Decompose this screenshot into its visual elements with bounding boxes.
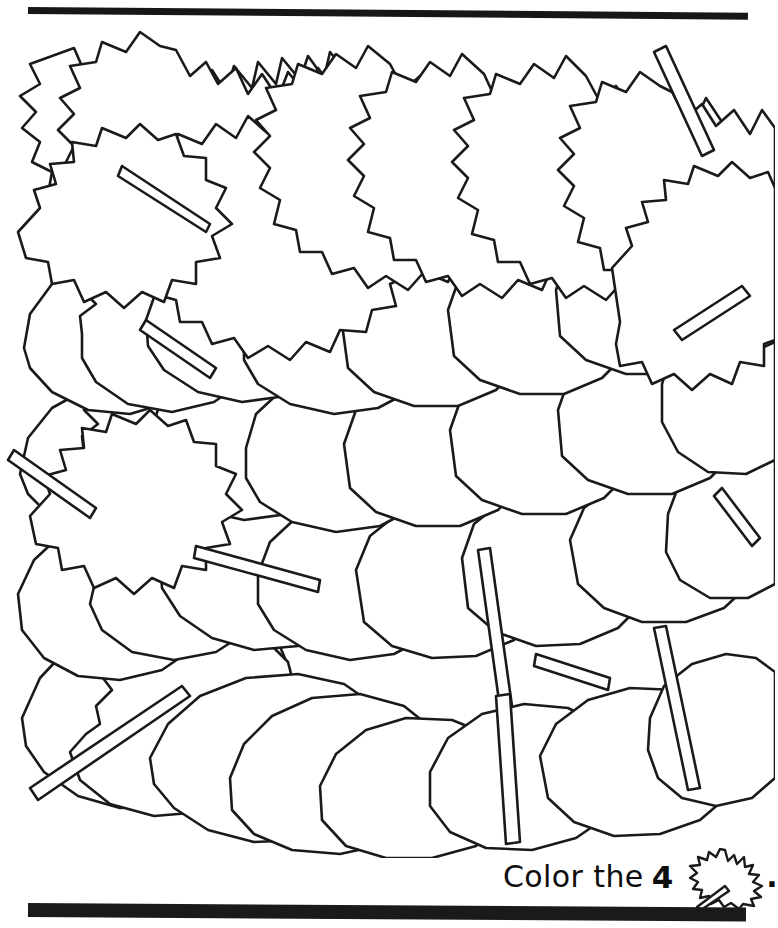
- caption-period: .: [766, 862, 777, 892]
- caption-line: Color the 4 .: [503, 855, 778, 899]
- caption-prefix: Color the: [503, 862, 644, 892]
- caption-count: 4: [652, 862, 674, 893]
- bottom-rule-bar: [28, 903, 746, 921]
- leaf-pile-artwork: [0, 18, 775, 858]
- maple-leaf-icon: [681, 848, 765, 910]
